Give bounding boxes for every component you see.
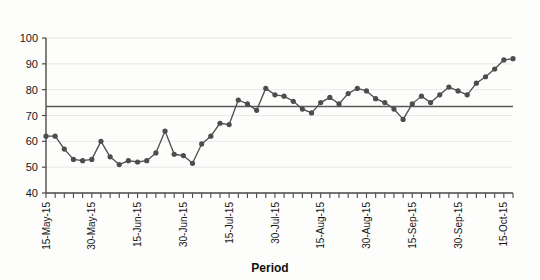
x-axis-title: Period: [251, 261, 288, 275]
data-point: [217, 121, 222, 126]
y-tick-label: 60: [26, 135, 38, 147]
data-point: [89, 157, 94, 162]
data-point: [428, 100, 433, 105]
chart-canvas: 405060708090100 15-May-1530-May-1515-Jun…: [0, 0, 540, 280]
x-tick-label: 15-Sep-15: [407, 202, 418, 249]
data-point: [281, 94, 286, 99]
data-point: [43, 134, 48, 139]
data-point: [401, 117, 406, 122]
data-point: [300, 106, 305, 111]
data-point: [419, 94, 424, 99]
y-tick-label: 90: [26, 58, 38, 70]
data-point: [355, 86, 360, 91]
data-point: [446, 84, 451, 89]
data-point: [263, 86, 268, 91]
line-chart: 405060708090100 15-May-1530-May-1515-Jun…: [0, 0, 540, 280]
data-point: [126, 158, 131, 163]
data-point: [410, 101, 415, 106]
y-tick-label: 80: [26, 84, 38, 96]
data-point: [501, 57, 506, 62]
data-series: [46, 59, 513, 165]
data-point: [291, 99, 296, 104]
data-point: [107, 154, 112, 159]
data-point: [181, 153, 186, 158]
data-point: [144, 158, 149, 163]
x-tick-label: 30-Sep-15: [453, 202, 464, 249]
y-tick-label: 40: [26, 187, 38, 199]
x-tick-label: 15-Jul-15: [224, 202, 235, 244]
data-point: [245, 101, 250, 106]
data-point: [162, 128, 167, 133]
data-point: [53, 134, 58, 139]
y-tick-label: 70: [26, 110, 38, 122]
x-tick-label: 30-Jul-15: [270, 202, 281, 244]
data-point: [510, 56, 515, 61]
x-tick-label: 30-Aug-15: [361, 202, 372, 249]
data-point: [62, 146, 67, 151]
data-point: [483, 74, 488, 79]
data-point: [327, 95, 332, 100]
data-point: [227, 122, 232, 127]
y-tick-label: 50: [26, 161, 38, 173]
data-point: [474, 81, 479, 86]
x-tick-labels: 15-May-1530-May-1515-Jun-1530-Jun-1515-J…: [41, 202, 510, 250]
data-point: [117, 162, 122, 167]
data-point: [236, 97, 241, 102]
data-point: [309, 110, 314, 115]
x-tick-label: 15-Aug-15: [315, 202, 326, 249]
data-point: [364, 88, 369, 93]
data-point: [190, 161, 195, 166]
data-point: [318, 100, 323, 105]
data-point: [153, 150, 158, 155]
gridlines: [46, 38, 513, 193]
x-tick-label: 15-May-15: [41, 202, 52, 250]
data-markers: [43, 56, 515, 167]
x-tick-label: 30-Jun-15: [178, 202, 189, 247]
data-point: [98, 139, 103, 144]
data-point: [346, 91, 351, 96]
data-point: [71, 157, 76, 162]
data-point: [455, 88, 460, 93]
data-point: [208, 134, 213, 139]
x-tick-label: 30-May-15: [86, 202, 97, 250]
data-point: [199, 141, 204, 146]
x-axis: [46, 193, 513, 198]
data-point: [135, 159, 140, 164]
data-point: [382, 100, 387, 105]
data-point: [492, 66, 497, 71]
data-point: [336, 101, 341, 106]
data-point: [80, 158, 85, 163]
y-tick-label: 100: [20, 32, 38, 44]
x-tick-label: 15-Jun-15: [132, 202, 143, 247]
data-point: [391, 106, 396, 111]
x-tick-label: 15-Oct-15: [498, 202, 509, 247]
data-point: [172, 152, 177, 157]
data-point: [373, 96, 378, 101]
data-point: [272, 92, 277, 97]
data-point: [254, 108, 259, 113]
data-point: [465, 92, 470, 97]
y-axis: 405060708090100: [20, 32, 46, 199]
data-point: [437, 92, 442, 97]
